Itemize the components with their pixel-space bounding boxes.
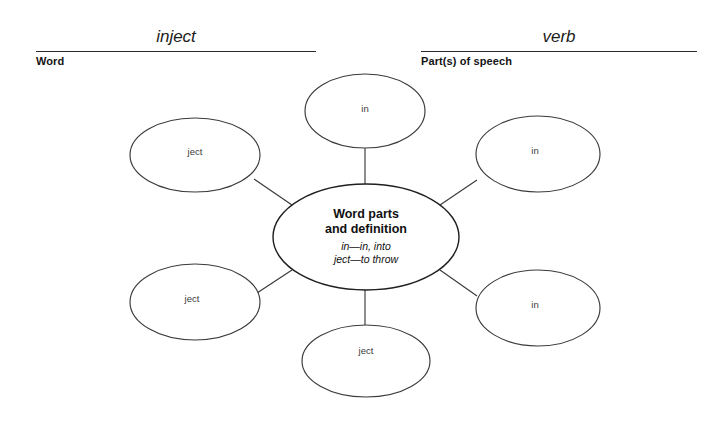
center-node-ellipse[interactable] — [273, 184, 459, 290]
node-lower-left-label: ject — [184, 293, 200, 304]
node-upper-left-label: ject — [187, 146, 203, 157]
node-bottom-label: ject — [358, 345, 374, 356]
spoke-upper-right — [440, 180, 477, 205]
node-bottom[interactable]: ject — [302, 325, 430, 397]
center-definition-line1: in—in, into — [341, 240, 391, 252]
center-title-line2: and definition — [325, 222, 407, 236]
center-title-line1: Word parts — [333, 207, 399, 221]
center-node[interactable]: Word parts and definition in—in, into je… — [273, 184, 459, 290]
node-bottom-ellipse[interactable] — [302, 325, 430, 397]
node-lower-left[interactable]: ject — [130, 264, 260, 340]
node-top-label: in — [361, 103, 368, 114]
node-lower-right-label: in — [531, 299, 538, 310]
node-upper-right[interactable]: in — [476, 116, 600, 192]
spoke-lower-left — [254, 270, 292, 295]
spoke-upper-left — [254, 179, 292, 205]
spoke-lower-right — [440, 270, 477, 296]
worksheet-page: inject Word verb Part(s) of speech in je… — [0, 0, 707, 426]
node-upper-left[interactable]: ject — [130, 118, 260, 192]
node-top[interactable]: in — [305, 74, 425, 148]
word-map-diagram: in ject in ject in ject Wo — [0, 0, 707, 426]
center-definition-line2: ject—to throw — [332, 253, 400, 265]
node-upper-right-label: in — [531, 145, 538, 156]
node-lower-right[interactable]: in — [476, 270, 600, 346]
